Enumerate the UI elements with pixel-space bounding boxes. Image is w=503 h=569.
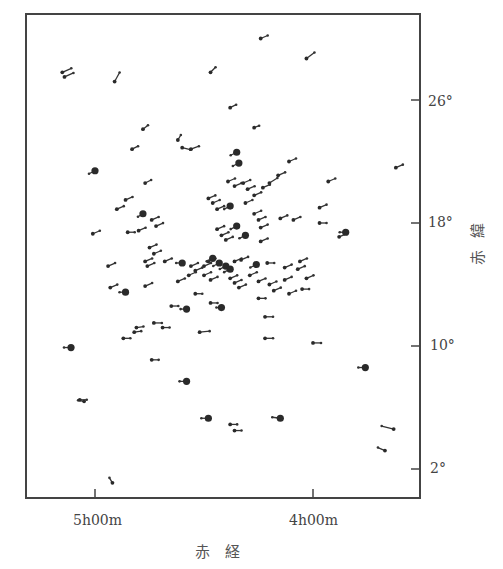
- star-marker: [287, 289, 297, 295]
- star-marker: [152, 249, 162, 255]
- star-marker: [232, 159, 243, 167]
- star-marker: [377, 446, 387, 452]
- star-marker: [126, 230, 136, 234]
- chart-plot-area: [0, 0, 503, 569]
- star-marker: [311, 341, 322, 345]
- star-marker: [60, 67, 72, 74]
- star-marker: [215, 304, 225, 311]
- star-marker: [265, 261, 275, 265]
- x-tick-label-4h: 4h00m: [289, 512, 338, 528]
- star-marker: [206, 194, 216, 200]
- y-axis-ticks: [411, 100, 420, 469]
- star-marker: [229, 149, 240, 157]
- y-tick-label-10: 10°: [430, 337, 455, 353]
- y-axis-title: 赤緯: [466, 224, 484, 245]
- star-marker: [150, 216, 160, 222]
- star-marker: [226, 177, 236, 183]
- star-marker: [241, 179, 251, 185]
- x-axis-ticks: [95, 489, 313, 498]
- star-marker: [300, 287, 310, 291]
- star-marker: [248, 271, 258, 277]
- star-marker: [272, 286, 282, 292]
- star-marker: [106, 262, 116, 268]
- star-marker: [137, 210, 147, 218]
- star-marker: [318, 221, 328, 225]
- star-marker: [118, 289, 129, 296]
- star-marker: [228, 274, 238, 280]
- star-marker: [257, 296, 267, 300]
- star-markers: [60, 34, 404, 485]
- star-marker: [357, 364, 369, 371]
- star-marker: [200, 415, 212, 422]
- y-tick-label-2: 2°: [430, 460, 446, 476]
- star-marker: [88, 167, 99, 175]
- star-marker: [91, 229, 101, 235]
- star-marker: [271, 415, 284, 422]
- y-axis-title-text: 赤緯: [466, 205, 487, 265]
- star-marker: [108, 283, 118, 289]
- star-marker: [233, 279, 243, 285]
- star-marker: [161, 326, 171, 330]
- star-marker: [175, 259, 186, 266]
- star-marker: [113, 71, 121, 83]
- star-marker: [268, 280, 278, 286]
- star-marker: [298, 257, 308, 263]
- star-marker: [239, 256, 249, 262]
- star-marker: [215, 225, 225, 231]
- star-marker: [252, 124, 260, 129]
- star-marker: [193, 292, 203, 296]
- star-marker: [143, 179, 152, 185]
- star-marker: [137, 226, 147, 232]
- star-marker: [305, 51, 316, 60]
- star-marker: [176, 277, 186, 283]
- star-marker: [338, 229, 349, 236]
- star-marker: [291, 216, 301, 222]
- star-marker: [152, 321, 163, 325]
- star-marker: [224, 236, 234, 242]
- star-marker: [124, 196, 134, 202]
- star-marker: [257, 216, 267, 222]
- star-marker: [209, 301, 219, 305]
- star-marker: [154, 222, 164, 228]
- star-marker: [211, 199, 221, 205]
- star-marker: [246, 185, 256, 191]
- star-marker: [108, 477, 114, 485]
- star-marker: [169, 304, 179, 308]
- star-marker: [318, 203, 328, 209]
- star-marker: [205, 255, 216, 263]
- star-marker: [276, 171, 286, 177]
- star-marker: [209, 66, 217, 74]
- star-marker: [259, 237, 269, 243]
- star-marker: [257, 277, 267, 283]
- star-marker: [233, 182, 243, 188]
- star-marker: [252, 209, 262, 215]
- star-marker: [244, 199, 254, 205]
- star-marker: [130, 145, 139, 151]
- star-marker: [249, 261, 260, 269]
- star-marker: [189, 145, 200, 151]
- star-marker: [283, 263, 293, 269]
- star-marker: [135, 325, 145, 329]
- star-marker: [394, 163, 404, 169]
- star-marker: [63, 72, 75, 79]
- star-marker: [141, 124, 149, 131]
- star-marker: [283, 276, 293, 282]
- star-marker: [380, 425, 395, 431]
- star-marker: [176, 134, 182, 142]
- star-marker: [237, 283, 247, 289]
- star-marker: [296, 265, 306, 271]
- star-marker: [252, 191, 262, 197]
- star-marker: [263, 336, 274, 340]
- star-marker: [220, 231, 230, 237]
- star-marker: [150, 358, 160, 362]
- star-marker: [202, 271, 212, 277]
- y-tick-label-26: 26°: [428, 93, 453, 109]
- x-axis-title: 赤 経: [195, 540, 240, 561]
- star-marker: [179, 306, 190, 313]
- y-tick-label-18: 18°: [428, 214, 453, 230]
- star-marker: [143, 282, 153, 288]
- star-marker: [148, 243, 158, 249]
- star-marker: [259, 34, 269, 40]
- star-marker: [287, 157, 297, 163]
- x-tick-label-5h: 5h00m: [73, 512, 122, 528]
